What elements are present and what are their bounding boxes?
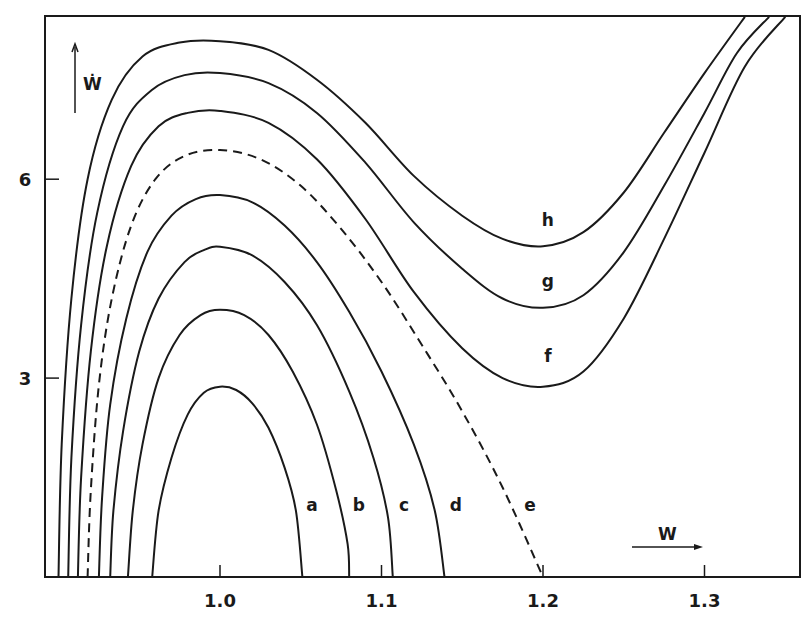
y-tick-label: 3 (19, 368, 32, 389)
y-axis-arrow: Ẇ (72, 44, 102, 113)
x-tick-label: 1.2 (527, 590, 559, 611)
x-tick-label: 1.0 (204, 590, 236, 611)
curve-label-a: a (306, 495, 317, 515)
axis-ticks: 1.01.11.21.336 (19, 169, 721, 611)
curve-a (152, 387, 302, 577)
curve-label-h: h (542, 210, 554, 230)
y-tick-label: 6 (19, 169, 32, 190)
curve-label-g: g (542, 271, 554, 291)
curve-label-c: c (399, 495, 409, 515)
curve-labels: abcdefgh (306, 210, 554, 515)
arrowhead-right-icon (694, 544, 703, 550)
curve-d (99, 195, 445, 577)
phase-plot: 1.01.11.21.336 abcdefgh Ẇ W (0, 0, 812, 624)
curve-label-e: e (524, 495, 536, 515)
y-axis-name: Ẇ (83, 73, 102, 94)
curve-label-b: b (353, 495, 365, 515)
curve-group (59, 17, 786, 577)
curve-label-d: d (450, 495, 462, 515)
curve-c (110, 247, 393, 577)
curve-b (128, 310, 349, 577)
curve-f (78, 17, 785, 577)
x-axis-arrow: W (632, 524, 703, 550)
x-tick-label: 1.3 (689, 590, 721, 611)
x-axis-name: W (658, 524, 677, 544)
x-tick-label: 1.1 (366, 590, 398, 611)
curve-label-f: f (544, 346, 552, 366)
